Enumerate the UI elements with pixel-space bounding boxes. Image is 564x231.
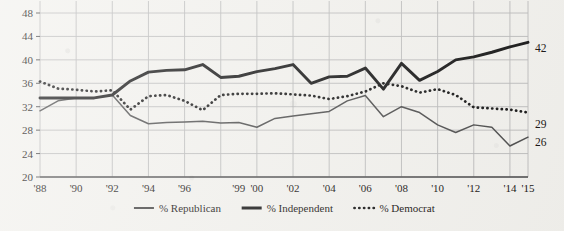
- x-axis-tick-labels: '88'90'92'94'96'99'00'02'04'06'08'10'12'…: [34, 182, 535, 194]
- x-tick-label-00: '00: [250, 182, 263, 194]
- x-tick-label-10: '10: [431, 182, 444, 194]
- x-tick-label-02: '02: [287, 182, 300, 194]
- y-tick-label-24: 24: [22, 148, 34, 160]
- y-tick-label-28: 28: [22, 124, 34, 136]
- x-tick-label-06: '06: [359, 182, 372, 194]
- series-line-republican: [40, 95, 528, 146]
- x-tick-label-12: '12: [467, 182, 480, 194]
- x-tick-label-14: '14: [503, 182, 516, 194]
- x-tick-label-99: '99: [232, 182, 245, 194]
- legend-label: % Independent: [267, 202, 333, 214]
- party-identification-line-chart: 2024283236404448 '88'90'92'94'96'99'00'0…: [0, 0, 564, 231]
- y-axis-tick-labels: 2024283236404448: [22, 7, 40, 183]
- y-tick-label-32: 32: [22, 101, 33, 113]
- x-tick-label-94: '94: [142, 182, 155, 194]
- x-tick-label-90: '90: [70, 182, 83, 194]
- series-line-independent: [40, 42, 528, 98]
- end-label-democrat: 29: [535, 118, 547, 130]
- legend-item-democrat[interactable]: % Democrat: [354, 202, 434, 214]
- y-tick-label-44: 44: [22, 30, 34, 42]
- x-tick-label-15: '15: [522, 182, 535, 194]
- y-tick-label-40: 40: [22, 54, 34, 66]
- y-tick-label-36: 36: [22, 77, 34, 89]
- legend-item-republican[interactable]: % Republican: [134, 202, 222, 214]
- y-tick-label-20: 20: [22, 171, 34, 183]
- x-tick-label-92: '92: [106, 182, 119, 194]
- series-end-labels: 264229: [535, 42, 547, 148]
- legend-label: % Democrat: [379, 202, 434, 214]
- end-label-independent: 42: [535, 42, 547, 54]
- x-tick-label-88: '88: [34, 182, 47, 194]
- x-tick-label-04: '04: [323, 182, 336, 194]
- chart-legend: % Republican% Independent% Democrat: [134, 202, 435, 214]
- chart-canvas: 2024283236404448 '88'90'92'94'96'99'00'0…: [0, 0, 564, 231]
- x-tick-label-96: '96: [178, 182, 191, 194]
- end-label-republican: 26: [535, 136, 547, 148]
- grid-layer: [40, 1, 528, 177]
- legend-label: % Republican: [159, 202, 222, 214]
- legend-item-independent[interactable]: % Independent: [242, 202, 333, 214]
- x-tick-label-08: '08: [395, 182, 408, 194]
- y-tick-label-48: 48: [22, 7, 34, 19]
